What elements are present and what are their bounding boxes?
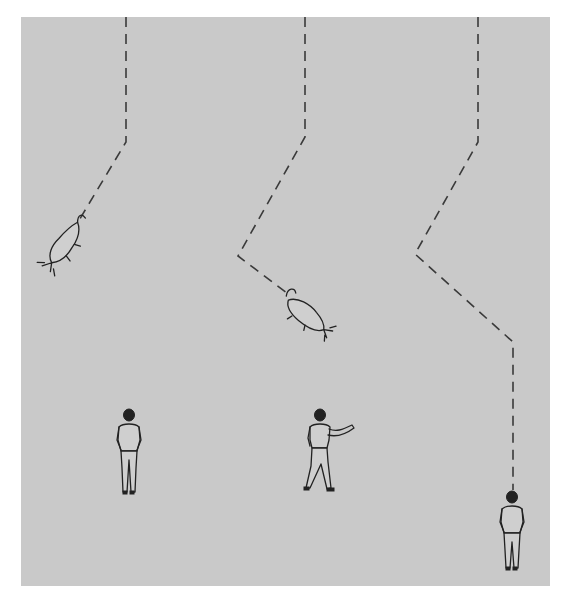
trajectory-path-2 xyxy=(238,17,305,293)
trajectory-path-1 xyxy=(78,17,126,222)
person-2-icon xyxy=(304,409,354,491)
trajectory-path-3 xyxy=(415,17,513,490)
cat-2-icon xyxy=(275,288,339,345)
cat-1-icon xyxy=(37,210,96,279)
person-3-icon xyxy=(500,491,524,570)
person-1-icon xyxy=(117,409,141,494)
diagram-scene xyxy=(0,0,569,601)
